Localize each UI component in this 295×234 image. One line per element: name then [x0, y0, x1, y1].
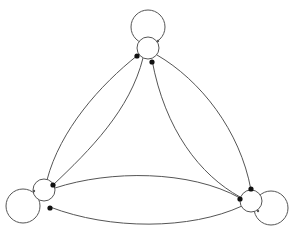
arrowheads	[33, 40, 259, 212]
arrowhead-icon	[237, 196, 242, 201]
edge-bl-to-top-inner	[53, 58, 143, 185]
loop-arrowhead-icon	[157, 40, 159, 42]
arrowhead-icon	[50, 182, 55, 187]
edge-br-to-bl-lower	[50, 206, 242, 224]
edge-top-to-bl-outer	[47, 55, 138, 180]
arrowhead-icon	[248, 186, 253, 191]
loop-arrowhead-icon	[257, 210, 259, 212]
arrowhead-icon	[47, 205, 52, 210]
node-bottom-left	[33, 179, 55, 201]
nodes	[33, 37, 262, 212]
edges	[47, 55, 251, 224]
edge-bl-to-br-upper	[55, 176, 240, 198]
node-bottom-right	[240, 190, 262, 212]
graph-canvas	[0, 0, 295, 234]
node-top	[137, 37, 159, 59]
arrowhead-icon	[149, 59, 154, 64]
directed-graph	[0, 0, 295, 234]
loop-arrowhead-icon	[33, 190, 35, 192]
arrowhead-icon	[134, 53, 139, 58]
